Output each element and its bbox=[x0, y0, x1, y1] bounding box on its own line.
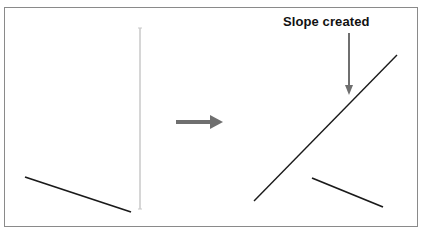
slope-segment bbox=[254, 55, 397, 201]
diagram-canvas bbox=[0, 0, 424, 234]
transition-arrow-icon bbox=[176, 115, 223, 129]
pointer-arrow-icon bbox=[345, 33, 353, 95]
vertical-guide-line bbox=[138, 28, 142, 209]
original-segment bbox=[25, 177, 131, 212]
slope-created-label: Slope created bbox=[283, 14, 370, 29]
short-segment bbox=[312, 178, 383, 207]
